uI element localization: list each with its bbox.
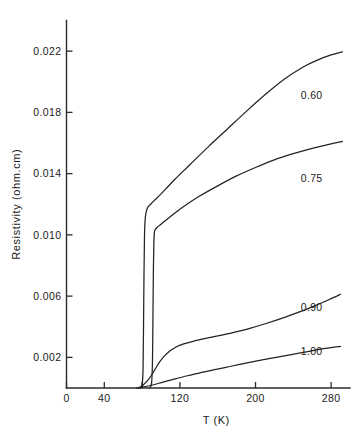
x-tick-label: 0 (63, 392, 69, 404)
y-axis-title: Resistivity (ohm.cm) (10, 149, 22, 260)
data-series-group (136, 52, 342, 388)
chart-canvas: 0.0020.0060.0100.0140.0180.022 040120200… (0, 0, 361, 432)
x-tick-label: 280 (322, 392, 341, 404)
series-label-1.00: 1.00 (301, 345, 323, 357)
x-axis-title: T (K) (203, 414, 230, 426)
series-curve-0.60 (140, 52, 342, 388)
y-tick-label: 0.018 (33, 106, 61, 118)
series-label-0.90: 0.90 (301, 301, 323, 313)
y-tick-label: 0.010 (33, 229, 61, 241)
y-tick-label: 0.022 (33, 45, 61, 57)
series-label-0.75: 0.75 (301, 172, 323, 184)
x-tick-label: 40 (98, 392, 110, 404)
y-tick-label: 0.006 (33, 290, 61, 302)
x-axis-tick-marks (67, 382, 332, 388)
x-axis-tick-labels: 040120200280 (63, 392, 340, 404)
y-axis-tick-labels: 0.0020.0060.0100.0140.0180.022 (33, 45, 61, 363)
y-axis-tick-marks (67, 51, 73, 357)
axes-group (67, 21, 351, 389)
resistivity-vs-temperature-figure: 0.0020.0060.0100.0140.0180.022 040120200… (0, 0, 361, 432)
x-tick-label: 120 (171, 392, 190, 404)
x-tick-label: 200 (246, 392, 265, 404)
series-inline-labels: 0.600.750.901.00 (301, 89, 323, 357)
y-tick-label: 0.002 (33, 351, 61, 363)
series-label-0.60: 0.60 (301, 89, 323, 101)
y-tick-label: 0.014 (33, 167, 61, 179)
